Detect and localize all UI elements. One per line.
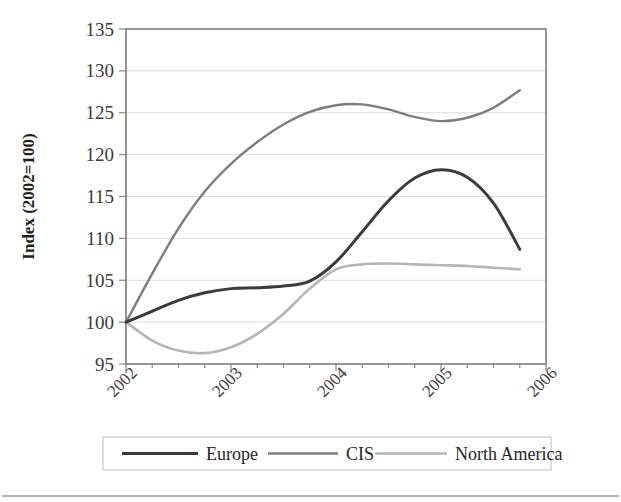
series-line-cis (126, 90, 520, 322)
x-tick-label: 2003 (208, 363, 245, 400)
x-tick-label: 2006 (523, 363, 560, 400)
series-lines (126, 90, 520, 353)
y-tick-label: 115 (86, 186, 114, 207)
y-tick-label: 125 (86, 102, 115, 123)
y-tick-label: 100 (86, 312, 115, 333)
y-axis-tick-labels: 95100105110115120125130135 (86, 19, 115, 375)
gridlines (126, 71, 546, 322)
x-tick-label: 2004 (313, 363, 351, 401)
y-tick-label: 110 (86, 228, 114, 249)
chart-legend: EuropeCISNorth America (103, 437, 562, 470)
line-chart: 95100105110115120125130135 2002200320042… (0, 0, 621, 502)
legend-label-europe: Europe (206, 444, 258, 464)
y-tick-label: 95 (95, 354, 114, 375)
y-tick-label: 120 (86, 144, 115, 165)
y-axis-ticks (119, 29, 126, 364)
series-line-north-america (126, 263, 520, 353)
y-axis-title: Index (2002=100) (19, 133, 38, 259)
x-axis-tick-labels: 20022003200420052006 (103, 363, 560, 401)
series-line-europe (126, 170, 520, 322)
y-tick-label: 135 (86, 19, 115, 40)
legend-label-cis: CIS (346, 444, 374, 464)
x-tick-label: 2005 (418, 363, 455, 400)
y-tick-label: 130 (86, 60, 115, 81)
chart-figure: 95100105110115120125130135 2002200320042… (0, 0, 621, 502)
legend-label-north-america: North America (455, 444, 562, 464)
y-tick-label: 105 (86, 270, 115, 291)
